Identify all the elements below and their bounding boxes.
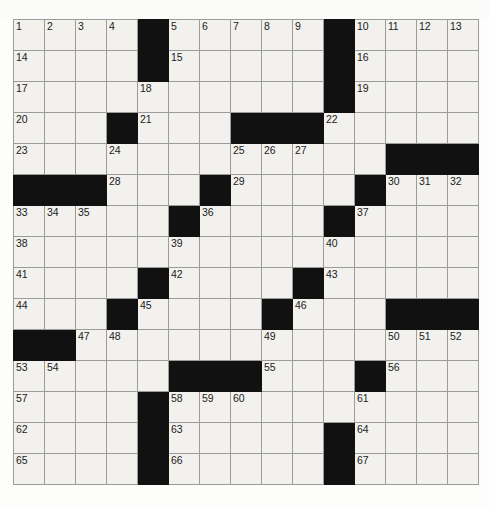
crossword-cell[interactable] xyxy=(355,144,386,175)
crossword-cell[interactable] xyxy=(200,423,231,454)
crossword-cell[interactable] xyxy=(76,51,107,82)
crossword-cell[interactable] xyxy=(324,392,355,423)
crossword-cell[interactable]: 18 xyxy=(138,82,169,113)
crossword-cell[interactable] xyxy=(262,206,293,237)
crossword-cell[interactable] xyxy=(76,237,107,268)
crossword-cell[interactable] xyxy=(417,237,448,268)
crossword-cell[interactable] xyxy=(262,454,293,485)
crossword-cell[interactable]: 47 xyxy=(76,330,107,361)
crossword-cell[interactable] xyxy=(262,392,293,423)
crossword-cell[interactable] xyxy=(293,82,324,113)
crossword-cell[interactable] xyxy=(76,113,107,144)
crossword-cell[interactable]: 17 xyxy=(14,82,45,113)
crossword-cell[interactable] xyxy=(231,268,262,299)
crossword-cell[interactable]: 26 xyxy=(262,144,293,175)
crossword-cell[interactable]: 35 xyxy=(76,206,107,237)
crossword-cell[interactable] xyxy=(138,361,169,392)
crossword-cell[interactable] xyxy=(45,299,76,330)
crossword-cell[interactable] xyxy=(45,423,76,454)
crossword-cell[interactable] xyxy=(448,51,479,82)
crossword-cell[interactable] xyxy=(231,82,262,113)
crossword-cell[interactable]: 43 xyxy=(324,268,355,299)
crossword-cell[interactable] xyxy=(324,361,355,392)
crossword-cell[interactable] xyxy=(324,330,355,361)
crossword-cell[interactable] xyxy=(448,113,479,144)
crossword-cell[interactable] xyxy=(107,454,138,485)
crossword-cell[interactable] xyxy=(324,175,355,206)
crossword-cell[interactable]: 22 xyxy=(324,113,355,144)
crossword-cell[interactable] xyxy=(169,330,200,361)
crossword-cell[interactable]: 51 xyxy=(417,330,448,361)
crossword-cell[interactable]: 61 xyxy=(355,392,386,423)
crossword-cell[interactable] xyxy=(169,144,200,175)
crossword-cell[interactable] xyxy=(200,268,231,299)
crossword-cell[interactable] xyxy=(231,237,262,268)
crossword-cell[interactable] xyxy=(107,392,138,423)
crossword-cell[interactable]: 24 xyxy=(107,144,138,175)
crossword-cell[interactable] xyxy=(448,268,479,299)
crossword-cell[interactable]: 41 xyxy=(14,268,45,299)
crossword-cell[interactable]: 40 xyxy=(324,237,355,268)
crossword-cell[interactable] xyxy=(200,454,231,485)
crossword-cell[interactable] xyxy=(293,237,324,268)
crossword-cell[interactable] xyxy=(386,268,417,299)
crossword-cell[interactable] xyxy=(45,237,76,268)
crossword-cell[interactable] xyxy=(107,237,138,268)
crossword-cell[interactable]: 31 xyxy=(417,175,448,206)
crossword-cell[interactable] xyxy=(138,206,169,237)
crossword-cell[interactable]: 32 xyxy=(448,175,479,206)
crossword-cell[interactable]: 7 xyxy=(231,20,262,51)
crossword-cell[interactable] xyxy=(355,113,386,144)
crossword-cell[interactable] xyxy=(262,175,293,206)
crossword-cell[interactable]: 67 xyxy=(355,454,386,485)
crossword-cell[interactable] xyxy=(169,82,200,113)
crossword-cell[interactable]: 8 xyxy=(262,20,293,51)
crossword-cell[interactable] xyxy=(324,144,355,175)
crossword-cell[interactable] xyxy=(324,299,355,330)
crossword-cell[interactable]: 13 xyxy=(448,20,479,51)
crossword-cell[interactable]: 28 xyxy=(107,175,138,206)
crossword-cell[interactable]: 36 xyxy=(200,206,231,237)
crossword-cell[interactable]: 38 xyxy=(14,237,45,268)
crossword-cell[interactable]: 53 xyxy=(14,361,45,392)
crossword-cell[interactable]: 14 xyxy=(14,51,45,82)
crossword-cell[interactable] xyxy=(231,330,262,361)
crossword-cell[interactable] xyxy=(107,361,138,392)
crossword-cell[interactable] xyxy=(231,299,262,330)
crossword-cell[interactable]: 21 xyxy=(138,113,169,144)
crossword-cell[interactable] xyxy=(355,330,386,361)
crossword-cell[interactable] xyxy=(262,268,293,299)
crossword-cell[interactable] xyxy=(355,299,386,330)
crossword-cell[interactable] xyxy=(107,423,138,454)
crossword-cell[interactable]: 20 xyxy=(14,113,45,144)
crossword-cell[interactable] xyxy=(169,299,200,330)
crossword-cell[interactable]: 45 xyxy=(138,299,169,330)
crossword-cell[interactable]: 56 xyxy=(386,361,417,392)
crossword-cell[interactable] xyxy=(448,361,479,392)
crossword-cell[interactable]: 62 xyxy=(14,423,45,454)
crossword-cell[interactable] xyxy=(231,454,262,485)
crossword-cell[interactable] xyxy=(448,206,479,237)
crossword-cell[interactable] xyxy=(417,423,448,454)
crossword-cell[interactable] xyxy=(200,113,231,144)
crossword-cell[interactable] xyxy=(138,175,169,206)
crossword-cell[interactable] xyxy=(293,392,324,423)
crossword-cell[interactable] xyxy=(386,392,417,423)
crossword-cell[interactable] xyxy=(45,392,76,423)
crossword-cell[interactable] xyxy=(417,113,448,144)
crossword-cell[interactable] xyxy=(231,51,262,82)
crossword-cell[interactable] xyxy=(417,268,448,299)
crossword-cell[interactable] xyxy=(45,268,76,299)
crossword-cell[interactable] xyxy=(386,206,417,237)
crossword-grid[interactable]: 1234567891011121314151617181920212223242… xyxy=(13,19,479,485)
crossword-cell[interactable] xyxy=(448,392,479,423)
crossword-cell[interactable]: 66 xyxy=(169,454,200,485)
crossword-cell[interactable]: 34 xyxy=(45,206,76,237)
crossword-cell[interactable] xyxy=(448,454,479,485)
crossword-cell[interactable] xyxy=(200,144,231,175)
crossword-cell[interactable] xyxy=(169,175,200,206)
crossword-cell[interactable]: 65 xyxy=(14,454,45,485)
crossword-cell[interactable] xyxy=(293,361,324,392)
crossword-cell[interactable] xyxy=(107,268,138,299)
crossword-cell[interactable] xyxy=(417,361,448,392)
